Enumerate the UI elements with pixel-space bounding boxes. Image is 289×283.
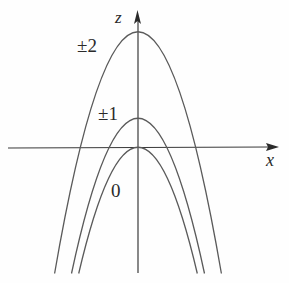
trace-diagram: z x ±2 ±1 0 bbox=[0, 0, 289, 283]
x-axis-label: x bbox=[265, 150, 274, 170]
x-axis bbox=[8, 143, 279, 151]
curve-label-pm2: ±2 bbox=[77, 35, 97, 56]
z-axis bbox=[134, 10, 141, 273]
diagram-canvas: z x ±2 ±1 0 bbox=[0, 0, 289, 283]
curve-label-0: 0 bbox=[111, 180, 121, 201]
curve-label-pm1: ±1 bbox=[98, 103, 118, 124]
z-axis-label: z bbox=[114, 8, 122, 27]
